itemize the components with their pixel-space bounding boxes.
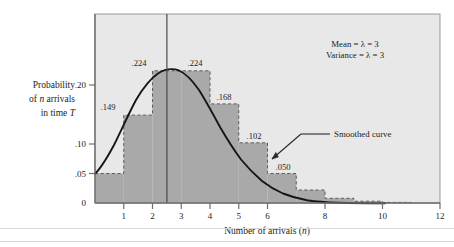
chart-canvas: .20 .10 .05 0 1 2 3 4 5 6 8 10 12 .149 .…: [0, 0, 454, 247]
y-tick-label-20: .20: [75, 80, 87, 90]
bar-value-label-168: .168: [217, 92, 232, 102]
bar-value-label-149: .149: [101, 102, 116, 112]
bar-value-label-224-second: .224: [188, 58, 204, 68]
bar-n1: [124, 115, 153, 203]
y-axis-title-line3: in time T: [41, 108, 76, 118]
y-tick-label-0: 0: [82, 198, 87, 208]
y-axis-title-line2: of n arrivals: [29, 94, 75, 104]
bar-n4: [210, 104, 239, 203]
variance-annotation: Variance = λ = 3: [326, 50, 385, 60]
bar-value-label-102: .102: [247, 131, 262, 141]
x-tick-label-1: 1: [122, 211, 127, 221]
x-tick-label-12: 12: [436, 211, 445, 221]
y-axis-title-line3-a: in time: [41, 108, 70, 118]
bar-value-label-224-first: .224: [132, 58, 148, 68]
x-tick-label-5: 5: [237, 211, 242, 221]
y-axis-title-line2-c: arrivals: [44, 94, 75, 104]
x-tick-label-6: 6: [265, 211, 270, 221]
x-tick-label-4: 4: [208, 211, 213, 221]
x-tick-label-10: 10: [378, 211, 388, 221]
y-axis-title-line1: Probability: [33, 80, 75, 90]
smoothed-curve-label: Smoothed curve: [334, 129, 392, 139]
bar-n3: [181, 71, 210, 203]
x-tick-label-2: 2: [150, 211, 155, 221]
y-axis-title-line2-a: of: [29, 94, 39, 104]
y-axis-title-line3-t: T: [70, 108, 76, 118]
x-tick-marks: [124, 203, 440, 209]
footer-divider-top: [0, 228, 454, 229]
y-tick-label-10: .10: [75, 139, 87, 149]
poisson-distribution-figure: .20 .10 .05 0 1 2 3 4 5 6 8 10 12 .149 .…: [0, 0, 454, 247]
y-tick-marks: [89, 85, 95, 174]
footer-divider-bottom: [0, 241, 454, 242]
bar-value-label-050: .050: [276, 162, 291, 172]
x-tick-label-8: 8: [323, 211, 328, 221]
mean-annotation: Mean = λ = 3: [331, 39, 379, 49]
y-tick-label-05: .05: [75, 169, 87, 179]
x-tick-label-3: 3: [179, 211, 184, 221]
bar-n0: [95, 174, 124, 204]
